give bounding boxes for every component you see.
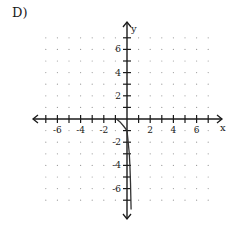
grid-dot: [68, 95, 69, 96]
grid-dot: [57, 84, 58, 85]
grid-dot: [103, 176, 104, 177]
grid-dot: [150, 84, 151, 85]
grid-dot: [184, 188, 185, 189]
grid-dot: [208, 130, 209, 131]
grid-dot: [173, 200, 174, 201]
grid-dot: [161, 37, 162, 38]
grid-dot: [57, 72, 58, 73]
y-tick-label: 2: [115, 91, 121, 101]
grid-dot: [196, 107, 197, 108]
grid-dot: [173, 72, 174, 73]
grid-dot: [196, 142, 197, 143]
grid-dot: [150, 107, 151, 108]
grid-dot: [92, 176, 93, 177]
grid-dot: [184, 107, 185, 108]
grid-dot: [196, 49, 197, 50]
grid-dot: [208, 153, 209, 154]
grid-dot: [184, 49, 185, 50]
grid-dot: [80, 200, 81, 201]
grid-dot: [103, 37, 104, 38]
grid-dot: [45, 130, 46, 131]
x-tick-label: -6: [53, 125, 62, 135]
grid-dot: [173, 142, 174, 143]
grid-dot: [138, 176, 139, 177]
grid-dot: [103, 72, 104, 73]
x-tick-label: -4: [76, 125, 85, 135]
grid-dot: [161, 188, 162, 189]
grid-dot: [45, 37, 46, 38]
grid-dot: [92, 130, 93, 131]
y-tick-label: -4: [112, 160, 121, 170]
grid-dot: [184, 60, 185, 61]
grid-dot: [92, 188, 93, 189]
grid-dot: [103, 95, 104, 96]
grid-dot: [57, 107, 58, 108]
grid-dot: [57, 153, 58, 154]
grid-dot: [92, 200, 93, 201]
x-tick-label: 6: [194, 125, 200, 135]
grid-dot: [68, 130, 69, 131]
grid-dot: [173, 49, 174, 50]
grid-dot: [80, 188, 81, 189]
grid-dot: [80, 84, 81, 85]
grid-dot: [196, 95, 197, 96]
grid-dot: [208, 95, 209, 96]
grid-dot: [150, 176, 151, 177]
grid-dot: [92, 153, 93, 154]
grid-dot: [103, 49, 104, 50]
grid-dot: [80, 176, 81, 177]
grid-dot: [196, 153, 197, 154]
grid-dot: [150, 72, 151, 73]
grid-dot: [57, 49, 58, 50]
grid-dot: [184, 84, 185, 85]
grid-dot: [92, 60, 93, 61]
grid-dot: [161, 84, 162, 85]
grid-dot: [161, 107, 162, 108]
grid-dot: [161, 142, 162, 143]
grid-dot: [92, 49, 93, 50]
grid-dot: [92, 95, 93, 96]
grid-dot: [150, 165, 151, 166]
grid-dot: [92, 107, 93, 108]
grid-dot: [150, 60, 151, 61]
grid-dot: [173, 176, 174, 177]
grid-dot: [196, 176, 197, 177]
grid-dot: [45, 49, 46, 50]
grid-dot: [208, 49, 209, 50]
grid-dot: [196, 200, 197, 201]
grid-dot: [68, 49, 69, 50]
y-tick-label: 6: [115, 44, 121, 54]
grid-dot: [92, 142, 93, 143]
grid-dot: [208, 72, 209, 73]
grid-dot: [80, 37, 81, 38]
grid-dot: [173, 188, 174, 189]
grid-dot: [138, 130, 139, 131]
grid-dot: [80, 153, 81, 154]
grid-dot: [45, 188, 46, 189]
grid-dot: [138, 165, 139, 166]
grid-dot: [103, 107, 104, 108]
grid-dot: [208, 176, 209, 177]
grid-dot: [208, 37, 209, 38]
grid-dot: [115, 37, 116, 38]
grid-dot: [196, 84, 197, 85]
grid-dot: [184, 176, 185, 177]
grid-dot: [92, 72, 93, 73]
grid-dot: [173, 153, 174, 154]
grid-dot: [173, 107, 174, 108]
grid-dot: [45, 200, 46, 201]
grid-dot: [208, 84, 209, 85]
grid-dot: [150, 200, 151, 201]
grid-dot: [103, 153, 104, 154]
grid-dot: [80, 95, 81, 96]
grid-dot: [80, 49, 81, 50]
grid-dot: [45, 165, 46, 166]
grid-dot: [68, 84, 69, 85]
grid-dot: [68, 107, 69, 108]
grid-dot: [45, 142, 46, 143]
grid-dot: [184, 165, 185, 166]
x-tick-label: 4: [171, 125, 177, 135]
grid-dot: [161, 200, 162, 201]
grid-dot: [92, 37, 93, 38]
grid-dot: [184, 200, 185, 201]
